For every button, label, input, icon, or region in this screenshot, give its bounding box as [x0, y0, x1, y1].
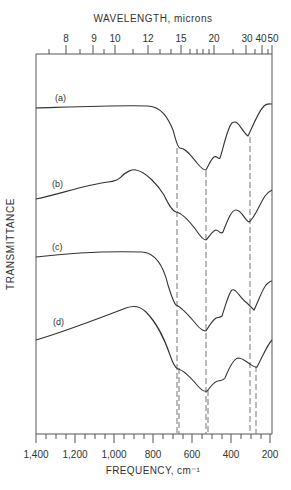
dashed-band-markers	[177, 137, 256, 434]
spectrum-a-line	[36, 104, 272, 170]
spectra	[36, 104, 272, 391]
bottom-axis-ticks: 1,400 1,200 1,000 800 600 400 200	[23, 449, 278, 460]
bottom-tick-label: 400	[223, 449, 240, 460]
series-label-b: (b)	[52, 179, 63, 189]
top-tick-label: 50	[267, 33, 279, 44]
series-labels: (a) (b) (c) (d)	[52, 93, 66, 327]
bottom-tick-label: 1,000	[101, 449, 126, 460]
spectrum-c-line	[36, 252, 272, 331]
top-axis-ticks: 8 9 10 12 15 20 30 40 50	[63, 33, 279, 44]
bottom-tick-label: 800	[145, 449, 162, 460]
bottom-tick-label: 200	[262, 449, 279, 460]
top-tick-label: 30	[241, 33, 253, 44]
top-axis-label: WAVELENGTH, microns	[94, 13, 213, 24]
top-tick-label: 20	[208, 33, 220, 44]
spectrum-b-line	[36, 170, 272, 240]
series-label-c: (c)	[52, 242, 63, 252]
top-tick-label: 10	[109, 33, 121, 44]
series-label-a: (a)	[55, 93, 66, 103]
series-label-d: (d)	[53, 317, 64, 327]
top-tick-label: 8	[63, 33, 69, 44]
plot-frame	[36, 54, 272, 434]
bottom-tick-label: 1,200	[62, 449, 87, 460]
top-tick-label: 9	[91, 33, 97, 44]
bottom-tick-label: 1,400	[23, 449, 48, 460]
bottom-axis-tick-marks	[36, 434, 270, 443]
ir-spectrum-chart: WAVELENGTH, microns 8 9 10 12 15 20 30 4…	[0, 0, 291, 490]
top-axis-tick-marks	[49, 45, 272, 54]
spectrum-d-line	[36, 306, 272, 391]
y-axis-label: TRANSMITTANCE	[5, 198, 16, 290]
top-tick-label: 15	[175, 33, 187, 44]
bottom-tick-label: 600	[184, 449, 201, 460]
top-tick-label: 12	[142, 33, 154, 44]
top-tick-label: 40	[255, 33, 267, 44]
x-axis-label: FREQUENCY, cm⁻¹	[106, 465, 201, 476]
